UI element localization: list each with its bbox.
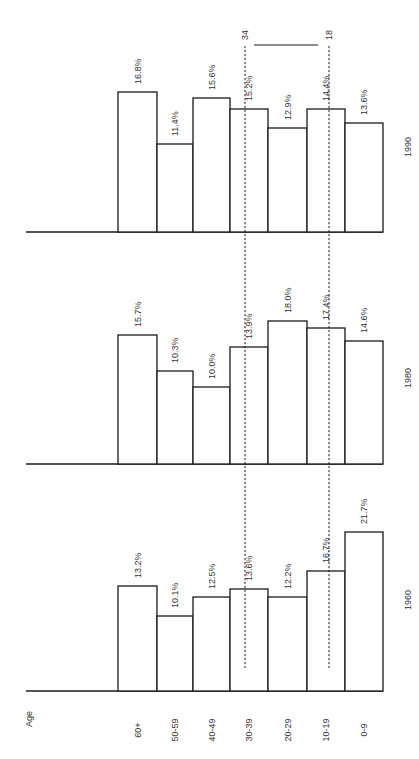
year-label-1960: 1960 xyxy=(403,590,413,610)
value-label-1960-20-29: 12.2% xyxy=(283,563,293,589)
bar-1980-10-19 xyxy=(307,328,345,464)
bar-1960-20-29 xyxy=(268,597,307,691)
category-label-30-39: 30-39 xyxy=(244,718,254,741)
year-label-1980: 1980 xyxy=(403,368,413,388)
value-label-1990-50-59: 11.4% xyxy=(170,111,180,136)
axis-title-age: Age xyxy=(24,711,34,727)
bar-1980-40-49 xyxy=(193,387,230,464)
bar-1990-50-59 xyxy=(157,144,193,232)
category-label-60+: 60+ xyxy=(133,722,143,737)
bar-1990-60+ xyxy=(118,92,157,232)
value-label-1990-0-9: 13.6% xyxy=(359,89,369,115)
category-label-40-49: 40-49 xyxy=(207,718,217,741)
value-label-1990-20-29: 12.9% xyxy=(283,94,293,120)
bar-1980-30-39 xyxy=(230,347,268,464)
year-label-1990: 1990 xyxy=(403,137,413,157)
category-label-20-29: 20-29 xyxy=(283,718,293,741)
value-label-1960-60+: 13.2% xyxy=(133,552,143,578)
bar-1980-0-9 xyxy=(345,341,383,464)
bar-1980-20-29 xyxy=(268,321,307,464)
bar-1960-30-39 xyxy=(230,589,268,691)
bar-1980-50-59 xyxy=(157,371,193,464)
bar-1990-20-29 xyxy=(268,128,307,232)
category-label-50-59: 50-59 xyxy=(170,718,180,741)
bar-1960-60+ xyxy=(118,586,157,691)
value-label-1980-50-59: 10.3% xyxy=(170,337,180,363)
value-label-1960-40-49: 12.5% xyxy=(207,563,217,589)
value-label-1980-0-9: 14.6% xyxy=(359,307,369,333)
value-label-1990-60+: 16.8% xyxy=(133,58,143,84)
bar-1960-50-59 xyxy=(157,616,193,691)
value-label-1980-20-29: 18.0% xyxy=(283,287,293,313)
value-label-1960-50-59: 10.1% xyxy=(170,582,180,608)
bar-1990-0-9 xyxy=(345,123,383,232)
bar-1990-10-19 xyxy=(307,109,345,232)
value-label-1980-60+: 15.7% xyxy=(133,301,143,327)
category-label-0-9: 0-9 xyxy=(359,723,369,736)
marker-18-label: 18 xyxy=(324,30,334,40)
bar-1980-60+ xyxy=(118,335,157,464)
bar-1990-30-39 xyxy=(230,109,268,232)
value-label-1960-0-9: 21.7% xyxy=(359,498,369,524)
population-age-chart: 16.8%11.4%15.6%15.2%12.9%14.4%13.6%19901… xyxy=(0,0,419,759)
marker-34-label: 34 xyxy=(240,30,250,40)
value-label-1990-40-49: 15.6% xyxy=(207,64,217,90)
category-label-10-19: 10-19 xyxy=(321,718,331,741)
value-label-1980-40-49: 10.0% xyxy=(207,353,217,379)
bar-1960-0-9 xyxy=(345,532,383,691)
bar-1960-40-49 xyxy=(193,597,230,691)
bar-1990-40-49 xyxy=(193,98,230,232)
bar-1960-10-19 xyxy=(307,571,345,691)
